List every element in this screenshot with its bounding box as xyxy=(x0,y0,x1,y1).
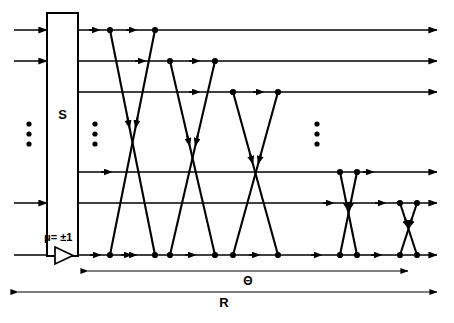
stage-ellipsis-left xyxy=(92,131,97,136)
input-ellipsis xyxy=(26,121,31,126)
theta-span-label: Θ xyxy=(243,274,252,288)
crossing-link-group xyxy=(110,30,417,255)
tap-node xyxy=(212,252,218,258)
stage-ellipsis-left xyxy=(92,141,97,146)
crossing-5-direction-arrow xyxy=(250,154,252,161)
stage-ellipsis-right xyxy=(314,121,319,126)
tap-node xyxy=(275,252,281,258)
figure-canvas: S μ= ±1 Θ R xyxy=(0,0,454,323)
crossing-6-direction-arrow xyxy=(259,154,261,161)
tap-node xyxy=(397,200,403,206)
span-measure-group xyxy=(18,271,437,292)
tap-node xyxy=(337,252,343,258)
tap-node xyxy=(337,169,343,175)
input-ellipsis xyxy=(26,131,31,136)
crossing-8-direction-arrow xyxy=(350,200,351,207)
network-diagram: S μ= ±1 Θ R xyxy=(0,0,454,323)
tap-node xyxy=(107,27,113,33)
crossing-1-direction-arrow xyxy=(128,118,129,125)
crossing-9-direction-arrow xyxy=(405,218,407,225)
stage-ellipsis-right xyxy=(314,141,319,146)
tap-node xyxy=(414,200,420,206)
tap-node xyxy=(107,252,113,258)
crossing-3-direction-arrow xyxy=(187,136,189,143)
tap-node xyxy=(354,252,360,258)
tap-node xyxy=(212,58,218,64)
stage-ellipsis-left xyxy=(92,121,97,126)
tap-node xyxy=(167,58,173,64)
tap-node xyxy=(414,252,420,258)
crossing-2-direction-arrow xyxy=(136,118,137,125)
tap-node xyxy=(397,252,403,258)
input-ellipsis xyxy=(26,141,31,146)
tap-node xyxy=(230,89,236,95)
crossing-10-direction-arrow xyxy=(410,218,412,225)
gain-label: μ= ±1 xyxy=(44,231,72,243)
crossing-7-direction-arrow xyxy=(346,200,347,207)
r-span-label: R xyxy=(219,295,229,310)
switch-box-S xyxy=(47,13,78,256)
output-wire-group xyxy=(73,30,437,255)
tap-node xyxy=(275,89,281,95)
crossing-4-direction-arrow xyxy=(196,136,198,143)
tap-node xyxy=(152,27,158,33)
tap-node xyxy=(230,252,236,258)
tap-node xyxy=(152,252,158,258)
tap-node xyxy=(354,169,360,175)
tap-node xyxy=(167,252,173,258)
stage-ellipsis-right xyxy=(314,131,319,136)
switch-box-label: S xyxy=(58,107,67,122)
